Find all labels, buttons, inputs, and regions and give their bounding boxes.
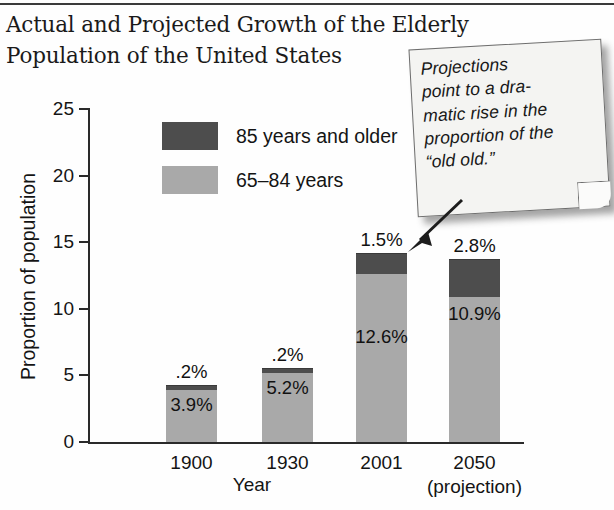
bar-label-65-84-1900: 3.9% bbox=[170, 394, 212, 416]
x-tick-label-1900: 1900 bbox=[170, 451, 212, 475]
y-axis-line bbox=[88, 108, 90, 444]
chart-figure: Actual and Projected Growth of the Elder… bbox=[0, 0, 614, 510]
y-tick-15 bbox=[79, 241, 90, 243]
y-tick-label-15: 15 bbox=[53, 231, 74, 253]
y-tick-label-25: 25 bbox=[53, 98, 74, 120]
bar-label-65-84-2001: 12.6% bbox=[355, 326, 407, 348]
x-axis-line bbox=[88, 442, 524, 444]
bar-segment-65-84-2050[interactable]: 10.9% bbox=[449, 297, 500, 442]
chart-title-line-1: Actual and Projected Growth of the Elder… bbox=[6, 10, 466, 41]
y-axis-title: Proportion of population bbox=[16, 108, 42, 444]
y-tick-0 bbox=[79, 441, 90, 443]
x-axis-title-label: Year bbox=[233, 474, 271, 495]
bar-segment-65-84-1930[interactable]: 5.2% bbox=[262, 373, 313, 442]
bar-segment-85plus-2050[interactable]: 2.8% bbox=[449, 259, 500, 297]
bar-group-2001[interactable]: 1.5% 12.6% 2001 bbox=[356, 253, 407, 442]
legend-swatch-85plus bbox=[162, 122, 218, 150]
bar-label-85plus-1930: .2% bbox=[272, 344, 304, 366]
x-tick-label-1930: 1930 bbox=[266, 451, 308, 475]
bar-group-2050[interactable]: 2.8% 10.9% 2050 (projection) bbox=[449, 259, 500, 442]
y-tick-label-5: 5 bbox=[63, 364, 74, 386]
chart-title: Actual and Projected Growth of the Elder… bbox=[6, 10, 466, 71]
legend-item-85plus[interactable]: 85 years and older bbox=[162, 122, 398, 150]
bar-label-65-84-1930: 5.2% bbox=[266, 377, 308, 399]
x-tick-label-1930-text: 1930 bbox=[266, 452, 308, 473]
bar-group-1930[interactable]: .2% 5.2% 1930 bbox=[262, 368, 313, 442]
callout-note-text: Projections point to a dra- matic rise i… bbox=[420, 48, 599, 174]
x-tick-label-2050-text: 2050 bbox=[453, 452, 495, 473]
y-axis-title-label: Proportion of population bbox=[18, 172, 41, 379]
x-tick-label-2001: 2001 bbox=[360, 451, 402, 475]
y-tick-20 bbox=[79, 175, 90, 177]
x-tick-label-1900-text: 1900 bbox=[170, 452, 212, 473]
chart-title-line-2: Population of the United States bbox=[6, 41, 466, 72]
y-tick-label-10: 10 bbox=[53, 298, 74, 320]
chart-legend: 85 years and older 65–84 years bbox=[162, 122, 398, 210]
top-divider bbox=[0, 3, 614, 5]
bar-label-65-84-2050: 10.9% bbox=[448, 303, 500, 325]
y-tick-label-0: 0 bbox=[63, 431, 74, 453]
bar-segment-65-84-1900[interactable]: 3.9% bbox=[166, 390, 217, 442]
bar-group-1900[interactable]: .2% 3.9% 1900 bbox=[166, 385, 217, 442]
y-tick-25 bbox=[79, 108, 90, 110]
callout-note: Projections point to a dra- matic rise i… bbox=[408, 39, 610, 218]
y-tick-label-20: 20 bbox=[53, 165, 74, 187]
y-tick-5 bbox=[79, 374, 90, 376]
bar-label-85plus-2001: 1.5% bbox=[360, 229, 402, 251]
bar-label-85plus-1900: .2% bbox=[176, 361, 208, 383]
y-tick-10 bbox=[79, 308, 90, 310]
legend-item-65-84[interactable]: 65–84 years bbox=[162, 166, 398, 194]
legend-label-85plus: 85 years and older bbox=[236, 125, 398, 148]
x-axis-title: Year bbox=[0, 474, 614, 496]
legend-swatch-65-84 bbox=[162, 166, 218, 194]
bar-segment-65-84-2001[interactable]: 12.6% bbox=[356, 274, 407, 442]
callout-arrow-icon bbox=[398, 196, 468, 258]
legend-label-65-84: 65–84 years bbox=[236, 169, 343, 192]
x-tick-label-2001-text: 2001 bbox=[360, 452, 402, 473]
